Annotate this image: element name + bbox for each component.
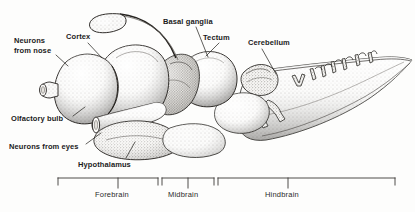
label-olfactory-bulb: Olfactory bulb [11,114,63,124]
region-label-midbrain: Midbrain [168,190,198,199]
forebrain-bracket [58,178,158,188]
olfactory-nerve-stub [40,82,58,98]
tegmentum [163,124,225,158]
neurons-from-nose-leader [56,55,68,66]
hindbrain-bracket [218,178,395,188]
region-label-forebrain: Forebrain [95,190,129,199]
olfactory-bulb [54,54,118,124]
label-cortex: Cortex [66,32,90,42]
midbrain-bracket [162,178,214,188]
brain-illustration [0,0,415,212]
label-neurons-from-eyes: Neurons from eyes [9,142,79,152]
cerebellum [241,65,278,96]
label-neurons-from-nose: Neurons from nose [14,36,51,55]
brain-anatomy-figure: Neurons from nose Cortex Basal ganglia T… [0,0,415,212]
label-cerebellum: Cerebellum [248,38,290,48]
label-hypothalamus: Hypothalamus [78,160,131,170]
region-brackets [58,178,395,188]
label-tectum: Tectum [203,33,230,43]
region-label-hindbrain: Hindbrain [265,190,299,199]
label-basal-ganglia: Basal ganglia [163,17,213,27]
